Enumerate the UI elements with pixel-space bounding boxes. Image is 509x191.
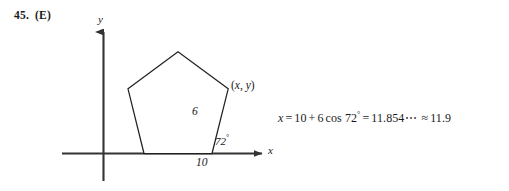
base-length-label: 10 [196,156,208,168]
equation-rounded-value: 11.9 [430,111,451,125]
x-axis-label: x [268,144,273,156]
angle-measure-label: 72° [215,133,229,147]
y-axis-label: y [98,13,103,25]
solution-equation: x=10+6cos 72°=11.854⋯≈11.9 [278,110,451,126]
approx-sign: ≈ [419,111,430,125]
problem-figure-page: 45.(E) y x (x, y) 6 10 72° x=10+6cos 72 [0,0,509,191]
equation-term-a: 10 [294,111,306,125]
cosine-function: cos [324,111,342,125]
ellipsis-glyph: ⋯ [404,111,419,125]
equation-argument: 72 [345,111,357,125]
paren-close: ) [251,79,255,91]
degree-symbol-icon: ° [226,133,229,142]
pentagon-shape [128,52,228,154]
equals-sign-1: = [283,111,294,125]
plus-sign: + [307,111,318,125]
coordinate-figure [0,0,509,191]
side-length-label: 6 [192,105,198,117]
equals-sign-2: = [360,111,371,125]
equation-coefficient: 6 [317,111,323,125]
angle-value: 72 [215,135,226,147]
equation-exact-value: 11.854 [371,111,404,125]
vertex-coordinate-label: (x, y) [231,79,255,91]
